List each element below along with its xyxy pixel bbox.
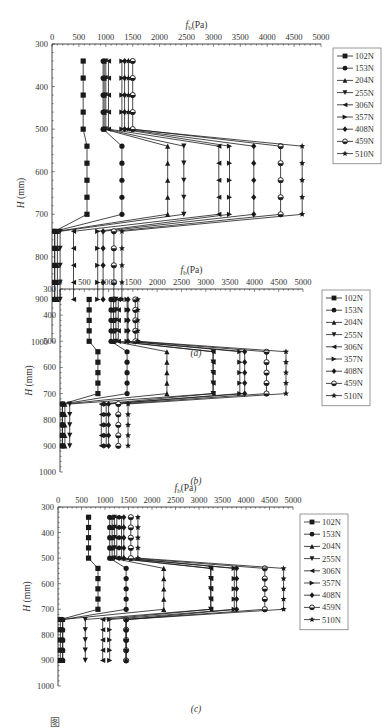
legend: 102N153N204N255N306N357N408N459N510N [333, 48, 381, 164]
y-tick-label: 700 [41, 604, 54, 614]
legend-label: 357N [344, 354, 363, 364]
x-tick-label: 3000 [205, 32, 222, 42]
y-tick-label: 300 [43, 284, 56, 294]
y-tick-label: 800 [35, 252, 48, 262]
x-tick-label: 2500 [178, 32, 195, 42]
x-tick-label: 5000 [313, 32, 330, 42]
x-tick-label: 3500 [214, 495, 231, 505]
x-axis-label: fb(Pa) [181, 265, 203, 277]
y-tick-label: 900 [35, 294, 48, 304]
y-tick-label: 700 [43, 389, 56, 399]
legend-label: 255N [344, 330, 363, 340]
x-tick-label: 2000 [149, 277, 166, 287]
x-tick-label: 3500 [222, 277, 239, 287]
y-tick-label: 400 [35, 82, 48, 92]
legend-label: 510N [344, 391, 363, 401]
y-tick-label: 300 [35, 39, 48, 49]
legend-label: 204N [355, 75, 374, 85]
x-tick-label: 2500 [167, 495, 184, 505]
x-tick-label: 5000 [295, 277, 312, 287]
x-tick-label: 1500 [124, 32, 141, 42]
y-tick-label: 600 [41, 579, 54, 589]
y-axis-label: H (mm) [22, 581, 33, 612]
x-tick-label: 0 [50, 32, 54, 42]
x-tick-label: 2500 [173, 277, 190, 287]
legend-label: 306N [344, 342, 363, 352]
series-306N [100, 515, 213, 663]
legend-label: 357N [355, 112, 374, 122]
y-tick-label: 500 [43, 336, 56, 346]
y-tick-label: 800 [41, 630, 54, 640]
panel-caption: (c) [191, 704, 202, 715]
legend-label: 204N [344, 317, 363, 327]
x-tick-label: 500 [75, 495, 88, 505]
x-tick-label: 1500 [124, 277, 141, 287]
legend-label: 153N [322, 529, 341, 539]
y-tick-label: 500 [41, 553, 54, 563]
y-tick-label: 1000 [37, 681, 54, 691]
x-tick-label: 4500 [286, 32, 303, 42]
x-tick-label: 4000 [238, 495, 255, 505]
legend-label: 459N [355, 136, 374, 146]
legend-label: 102N [344, 293, 363, 303]
x-tick-label: 4500 [261, 495, 278, 505]
y-tick-label: 700 [35, 209, 48, 219]
x-tick-label: 1500 [120, 495, 137, 505]
y-tick-label: 900 [41, 655, 54, 665]
x-tick-label: 500 [73, 32, 86, 42]
y-tick-label: 500 [35, 124, 48, 134]
x-axis-label: fb(Pa) [186, 20, 208, 32]
legend-label: 102N [355, 51, 374, 61]
x-tick-label: 5000 [285, 495, 302, 505]
legend-label: 408N [344, 366, 363, 376]
x-tick-label: 0 [58, 277, 62, 287]
legend-label: 408N [322, 590, 341, 600]
legend-label: 153N [344, 305, 363, 315]
y-tick-label: 900 [43, 441, 56, 451]
x-tick-label: 4000 [246, 277, 263, 287]
legend-label: 408N [355, 124, 374, 134]
legend-label: 459N [344, 378, 363, 388]
legend-label: 153N [355, 63, 374, 73]
legend-label: 459N [322, 602, 341, 612]
y-axis-label: H (mm) [16, 178, 27, 209]
legend-label: 357N [322, 578, 341, 588]
x-tick-label: 4000 [259, 32, 276, 42]
y-axis-label: H (mm) [24, 365, 35, 396]
x-axis-label: fb(Pa) [175, 483, 197, 495]
x-tick-label: 1000 [97, 32, 114, 42]
y-tick-label: 400 [43, 310, 56, 320]
legend-label: 102N [322, 517, 341, 527]
y-tick-label: 600 [43, 362, 56, 372]
legend-label: 204N [322, 541, 341, 551]
legend: 102N153N204N255N306N357N408N459N510N [322, 290, 370, 406]
figure-caption: 图 [50, 714, 60, 728]
x-tick-label: 3500 [232, 32, 249, 42]
x-tick-label: 2000 [144, 495, 161, 505]
chart-panel-c: 0500100015002000250030003500400045005000… [22, 483, 348, 715]
x-tick-label: 0 [56, 495, 60, 505]
legend-label: 306N [355, 100, 374, 110]
x-tick-label: 3000 [191, 495, 208, 505]
x-tick-label: 4500 [270, 277, 287, 287]
series-357N [104, 297, 243, 449]
legend-label: 510N [322, 615, 341, 625]
x-tick-label: 500 [78, 277, 91, 287]
y-tick-label: 1000 [39, 467, 56, 477]
legend-label: 510N [355, 149, 374, 159]
x-tick-label: 3000 [197, 277, 214, 287]
legend-label: 255N [355, 88, 374, 98]
legend-label: 306N [322, 566, 341, 576]
x-tick-label: 2000 [151, 32, 168, 42]
legend: 102N153N204N255N306N357N408N459N510N [300, 514, 348, 630]
series-510N [119, 58, 305, 302]
y-tick-label: 800 [43, 415, 56, 425]
x-tick-label: 1000 [100, 277, 117, 287]
charts-svg: 0500100015002000250030003500400045005000… [0, 0, 392, 728]
x-tick-label: 1000 [97, 495, 114, 505]
legend-label: 255N [322, 554, 341, 564]
y-tick-label: 600 [35, 167, 48, 177]
y-tick-label: 400 [41, 528, 54, 538]
y-tick-label: 300 [41, 502, 54, 512]
series-459N [124, 515, 268, 663]
